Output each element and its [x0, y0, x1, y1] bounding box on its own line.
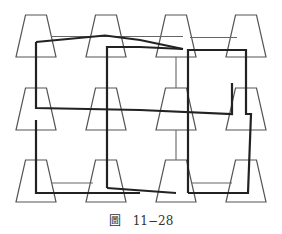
trapezoid-r3-c4	[226, 160, 266, 202]
trapezoid-r3-c3	[156, 160, 196, 202]
figure-number: 11−28	[133, 214, 174, 228]
figure-diagram	[0, 0, 282, 234]
thick-path-left-top	[36, 42, 232, 114]
thick-paths	[36, 36, 251, 194]
figure-caption: 圖11−28	[0, 211, 282, 228]
figure-label: 圖	[109, 214, 121, 228]
thick-path-right-loop	[188, 50, 251, 193]
trapezoid-r2-c3	[156, 88, 196, 130]
